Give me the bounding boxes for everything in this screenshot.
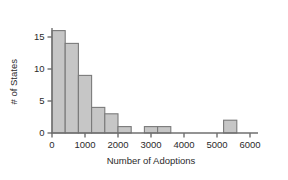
histogram-bar (52, 31, 65, 133)
y-tick-label: 5 (39, 95, 44, 106)
histogram-bar (118, 127, 131, 133)
x-ticks-group: 0100020003000400050006000 (49, 133, 260, 150)
y-axis-title: # of States (8, 59, 19, 105)
y-tick-label: 10 (34, 63, 45, 74)
histogram-chart: 0510150100020003000400050006000Number of… (0, 0, 288, 180)
chart-canvas: 0510150100020003000400050006000Number of… (0, 0, 288, 180)
bars-group (52, 31, 237, 133)
x-tick-label: 0 (49, 139, 54, 150)
y-tick-label: 0 (39, 127, 44, 138)
y-ticks-group: 051015 (34, 31, 52, 138)
x-axis-title: Number of Adoptions (107, 155, 196, 166)
histogram-bar (144, 127, 157, 133)
x-tick-label: 4000 (173, 139, 194, 150)
histogram-bar (65, 43, 78, 133)
y-tick-label: 15 (34, 31, 45, 42)
x-tick-label: 5000 (206, 139, 227, 150)
histogram-bar (158, 127, 171, 133)
x-tick-label: 3000 (140, 139, 161, 150)
x-tick-label: 6000 (239, 139, 260, 150)
x-tick-label: 1000 (74, 139, 95, 150)
x-tick-label: 2000 (107, 139, 128, 150)
histogram-bar (78, 75, 91, 133)
histogram-bar (224, 120, 237, 133)
histogram-bar (92, 107, 105, 133)
histogram-bar (105, 114, 118, 133)
